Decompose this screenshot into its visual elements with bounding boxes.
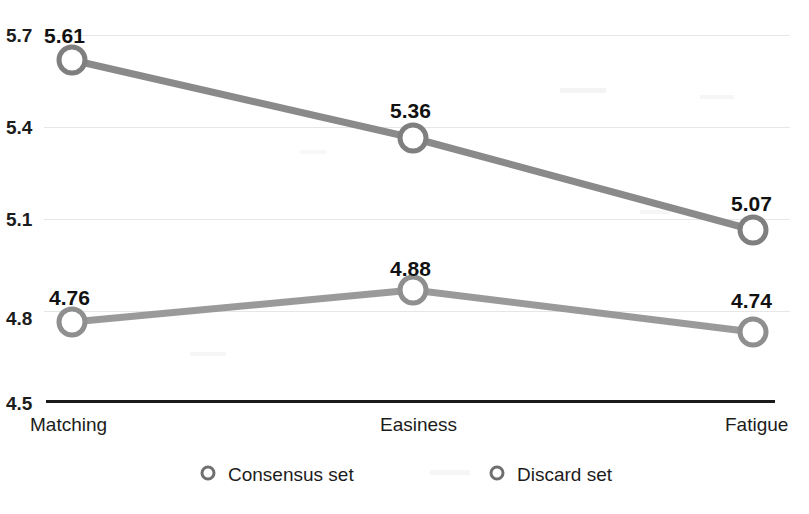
data-label-discard-easiness: 4.88 xyxy=(390,257,431,280)
data-label-discard-matching: 4.76 xyxy=(49,286,90,309)
y-tick-label-2: 5.1 xyxy=(6,209,33,230)
legend-open-circle-marker-consensus xyxy=(202,467,214,479)
y-tick-label-1: 5.4 xyxy=(6,117,33,138)
chart-canvas: 5.7 5.4 5.1 4.8 4.5 5.61 5.36 5.07 xyxy=(0,0,809,514)
data-label-discard-fatigue: 4.74 xyxy=(731,289,772,312)
legend-label-discard-set: Discard set xyxy=(517,464,613,485)
y-tick-label-3: 4.8 xyxy=(6,308,32,329)
x-category-label-fatigue: Fatigue xyxy=(725,414,788,435)
data-label-consensus-matching: 5.61 xyxy=(44,24,85,47)
x-category-label-easiness: Easiness xyxy=(380,414,457,435)
data-point-discard-easiness xyxy=(400,277,426,303)
data-point-consensus-easiness xyxy=(400,125,426,151)
data-point-consensus-fatigue xyxy=(740,217,766,243)
data-label-consensus-easiness: 5.36 xyxy=(390,99,431,122)
data-label-consensus-fatigue: 5.07 xyxy=(731,192,772,215)
data-point-consensus-matching xyxy=(59,47,85,73)
data-point-discard-matching xyxy=(59,309,85,335)
data-point-discard-fatigue xyxy=(740,319,766,345)
y-tick-label-0: 5.7 xyxy=(6,25,32,46)
legend-label-consensus-set: Consensus set xyxy=(228,464,354,485)
y-tick-label-4: 4.5 xyxy=(6,393,33,414)
line-chart: 5.7 5.4 5.1 4.8 4.5 5.61 5.36 5.07 xyxy=(0,0,809,514)
legend-open-circle-marker-discard xyxy=(491,467,503,479)
x-category-label-matching: Matching xyxy=(30,414,107,435)
